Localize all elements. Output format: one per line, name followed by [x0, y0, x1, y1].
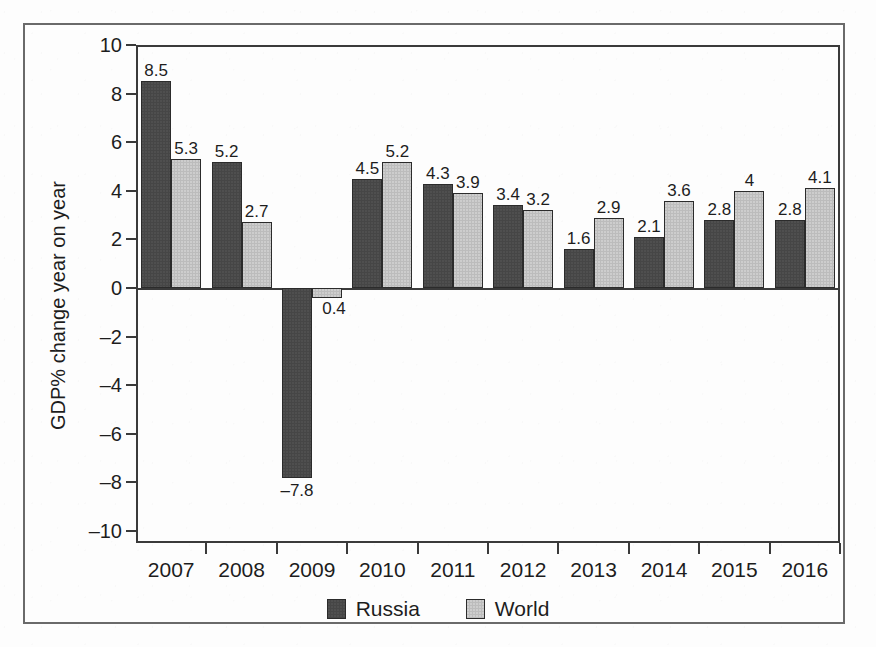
bar-world-2009	[312, 288, 342, 298]
x-axis-tick-label: 2007	[136, 558, 206, 582]
y-axis-tick-label: 2	[60, 229, 122, 249]
y-axis-tick	[126, 336, 136, 338]
y-axis-tick-label: –6	[60, 424, 122, 444]
y-axis-tick	[126, 93, 136, 95]
bar-russia-2014	[634, 237, 664, 288]
bar-world-2010	[382, 162, 412, 288]
y-axis-tick	[126, 433, 136, 435]
bar-world-2012	[523, 210, 553, 288]
bar-value-label: 2.7	[234, 203, 280, 220]
y-axis-tick	[126, 530, 136, 532]
x-axis-tick	[346, 543, 348, 554]
y-axis-tick	[126, 44, 136, 46]
bar-russia-2010	[352, 179, 382, 288]
bar-value-label: 0.4	[311, 300, 357, 317]
legend-label: Russia	[356, 597, 420, 621]
zero-baseline	[136, 288, 840, 290]
x-axis-tick-label: 2015	[699, 558, 769, 582]
bar-world-2011	[453, 193, 483, 288]
bar-world-2015	[734, 191, 764, 288]
scanned-page: GDP% change year on year 1086420–2–4–6–8…	[0, 0, 876, 647]
bar-russia-2011	[423, 184, 453, 288]
y-axis-tick	[126, 287, 136, 289]
x-axis-tick	[417, 543, 419, 554]
x-axis-tick	[839, 543, 841, 554]
bar-russia-2009	[282, 288, 312, 478]
grouped-bar-chart: GDP% change year on year 1086420–2–4–6–8…	[0, 0, 876, 647]
y-axis-tick-label: 0	[60, 278, 122, 298]
y-axis-tick	[126, 384, 136, 386]
x-axis-tick	[487, 543, 489, 554]
bar-russia-2015	[704, 220, 734, 288]
legend-item-russia: Russia	[327, 597, 420, 621]
x-axis-tick	[276, 543, 278, 554]
bar-russia-2008	[212, 162, 242, 288]
legend-swatch-icon	[327, 599, 346, 619]
y-axis-tick-label: 10	[60, 35, 122, 55]
chart-legend: RussiaWorld	[0, 597, 876, 621]
bar-value-label: 5.2	[374, 143, 420, 160]
x-axis-tick	[769, 543, 771, 554]
bar-russia-2007	[141, 81, 171, 288]
x-axis-tick-label: 2016	[770, 558, 840, 582]
y-axis-tick-label: 6	[60, 132, 122, 152]
bar-value-label: 8.5	[133, 62, 179, 79]
legend-label: World	[495, 597, 549, 621]
bar-russia-2012	[493, 205, 523, 288]
bar-value-label: 4.1	[797, 169, 843, 186]
legend-swatch-icon	[466, 599, 485, 619]
bar-world-2013	[594, 218, 624, 288]
bar-world-2014	[664, 201, 694, 288]
bar-russia-2016	[775, 220, 805, 288]
x-axis-tick	[557, 543, 559, 554]
y-axis-tick-label: 8	[60, 84, 122, 104]
legend-item-world: World	[466, 597, 549, 621]
bar-value-label: 3.9	[445, 174, 491, 191]
x-axis-tick-label: 2011	[418, 558, 488, 582]
bar-value-label: 3.6	[656, 182, 702, 199]
x-axis-tick	[628, 543, 630, 554]
y-axis-tick-label: –8	[60, 472, 122, 492]
bar-world-2008	[242, 222, 272, 288]
y-axis-tick-label: –4	[60, 375, 122, 395]
y-axis-tick	[126, 190, 136, 192]
plot-area-border	[136, 45, 840, 543]
x-axis-tick	[205, 543, 207, 554]
x-axis-tick-label: 2008	[206, 558, 276, 582]
bar-world-2016	[805, 188, 835, 288]
y-axis-tick-label: –2	[60, 327, 122, 347]
x-axis-tick-label: 2010	[347, 558, 417, 582]
bar-value-label: 2.9	[586, 199, 632, 216]
bar-value-label: 4	[726, 172, 772, 189]
y-axis-tick	[126, 481, 136, 483]
bar-world-2007	[171, 159, 201, 288]
x-axis-tick-label: 2012	[488, 558, 558, 582]
bar-value-label: –7.8	[274, 482, 320, 499]
y-axis-tick	[126, 141, 136, 143]
y-axis-tick	[126, 238, 136, 240]
y-axis-labels: 1086420–2–4–6–8–10	[48, 0, 122, 647]
bar-value-label: 5.3	[163, 140, 209, 157]
bar-value-label: 3.2	[515, 191, 561, 208]
y-axis-tick-label: 4	[60, 181, 122, 201]
x-axis-tick	[698, 543, 700, 554]
x-axis-tick-label: 2014	[629, 558, 699, 582]
x-axis-tick-label: 2009	[277, 558, 347, 582]
y-axis-tick-label: –10	[60, 521, 122, 541]
bar-value-label: 5.2	[204, 143, 250, 160]
bar-russia-2013	[564, 249, 594, 288]
x-axis-tick-label: 2013	[558, 558, 628, 582]
